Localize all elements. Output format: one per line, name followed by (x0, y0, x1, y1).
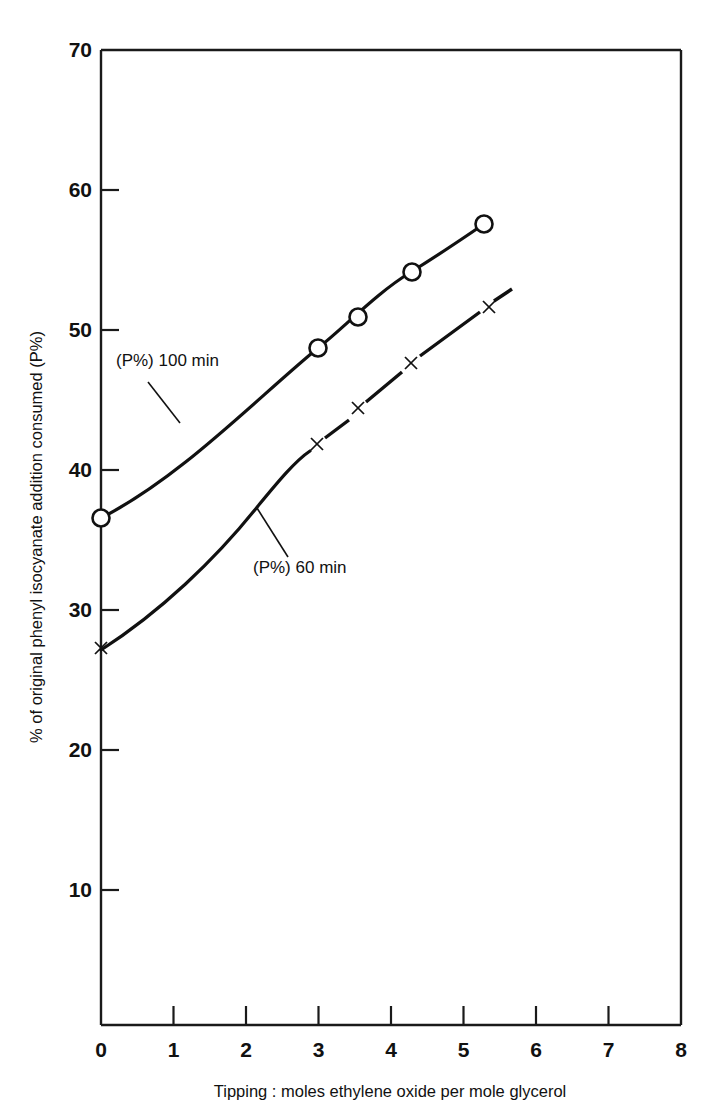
annotation-60min-label: (P%) 60 min (253, 558, 347, 577)
series-60min-point-4 (483, 301, 495, 313)
annotation-100min: (P%) 100 min (116, 351, 219, 423)
y-tick-label-10: 10 (69, 878, 92, 901)
series-100min-point-2 (350, 309, 367, 326)
series-60min-point-3 (405, 357, 417, 369)
annotation-60min-leader (257, 508, 288, 557)
chart-svg: 70 60 50 40 30 20 10 0 1 2 3 4 5 6 7 (0, 0, 719, 1118)
y-tick-label-60: 60 (69, 178, 92, 201)
series-100min-point-1 (310, 340, 327, 357)
y-axis-tick-labels: 70 60 50 40 30 20 10 (69, 38, 92, 901)
x-tick-label-0: 0 (95, 1038, 107, 1061)
x-tick-label-4: 4 (385, 1038, 397, 1061)
x-tick-label-8: 8 (675, 1038, 687, 1061)
figure-container: 70 60 50 40 30 20 10 0 1 2 3 4 5 6 7 (0, 0, 719, 1118)
series-100min-line (101, 224, 484, 518)
annotation-100min-label: (P%) 100 min (116, 351, 219, 370)
series-60min-line-solid (101, 451, 310, 650)
x-tick-label-6: 6 (530, 1038, 542, 1061)
x-axis-title: Tipping : moles ethylene oxide per mole … (214, 1082, 567, 1100)
x-axis-tick-labels: 0 1 2 3 4 5 6 7 8 (95, 1038, 687, 1061)
series-100min-point-3 (404, 264, 421, 281)
plot-frame (101, 50, 681, 1025)
x-tick-label-2: 2 (240, 1038, 252, 1061)
y-tick-label-70: 70 (69, 38, 92, 61)
x-axis-ticks (174, 1006, 609, 1025)
annotation-60min: (P%) 60 min (253, 508, 347, 577)
series-60min-point-1 (311, 438, 323, 450)
x-tick-label-3: 3 (313, 1038, 325, 1061)
series-60min-point-2 (352, 402, 364, 414)
series-60min (95, 289, 512, 654)
y-axis-title: % of original phenyl isocyanate addition… (27, 331, 45, 743)
y-tick-label-20: 20 (69, 738, 92, 761)
y-tick-label-50: 50 (69, 318, 92, 341)
series-100min (93, 216, 493, 527)
series-100min-point-4 (476, 216, 493, 233)
y-axis-ticks (101, 190, 119, 890)
x-tick-label-1: 1 (168, 1038, 180, 1061)
y-tick-label-40: 40 (69, 458, 92, 481)
x-tick-label-5: 5 (458, 1038, 470, 1061)
series-100min-point-0 (93, 510, 110, 527)
annotation-100min-leader (148, 382, 180, 423)
x-tick-label-7: 7 (603, 1038, 615, 1061)
y-tick-label-30: 30 (69, 598, 92, 621)
